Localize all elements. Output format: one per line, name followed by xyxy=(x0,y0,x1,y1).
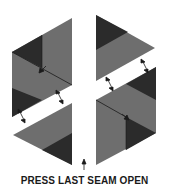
join-arrow-right-b-icon xyxy=(141,59,148,73)
caption: PRESS LAST SEAM OPEN xyxy=(0,175,169,186)
join-arrow-right-a-icon xyxy=(106,77,113,91)
last-seam-arrow-icon xyxy=(82,159,86,170)
quilt-hexagon-diagram xyxy=(0,0,169,191)
join-arrow-left-a-icon xyxy=(56,90,63,104)
